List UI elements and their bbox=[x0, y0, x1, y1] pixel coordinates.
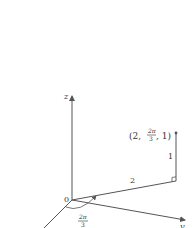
point-label-frac-den: 3 bbox=[149, 135, 153, 142]
angle-label-den: 3 bbox=[81, 221, 85, 228]
diagram-svg: z y 0 2 1 (2, 2π 3 , 1) 2π 3 bbox=[0, 0, 193, 228]
x-axis bbox=[42, 200, 72, 228]
origin-label: 0 bbox=[64, 195, 69, 204]
height-label: 1 bbox=[168, 152, 173, 161]
radius-segment bbox=[72, 181, 176, 200]
point-label-close: , 1) bbox=[156, 131, 171, 141]
radius-label: 2 bbox=[130, 176, 135, 185]
angle-label-num: 2π bbox=[78, 213, 88, 220]
z-axis-label: z bbox=[63, 92, 69, 101]
point-marker bbox=[175, 132, 178, 135]
y-axis-label: y bbox=[179, 222, 185, 228]
cylindrical-coordinates-diagram: z y 0 2 1 (2, 2π 3 , 1) 2π 3 bbox=[0, 0, 193, 228]
point-label-open: (2, bbox=[129, 131, 141, 141]
y-axis bbox=[72, 200, 185, 220]
